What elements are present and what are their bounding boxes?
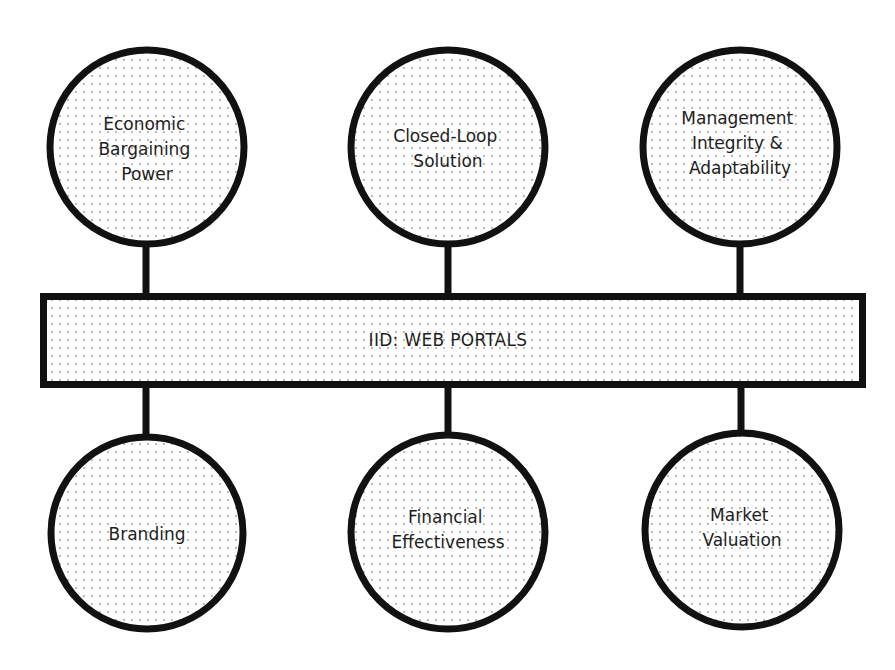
node-label-line: Financial xyxy=(408,507,482,527)
node-label-line: Bargaining xyxy=(98,139,190,159)
node-label-line: Valuation xyxy=(702,530,781,550)
center-bar-label: IID: WEB PORTALS xyxy=(369,330,528,350)
node-label-line: Closed-Loop xyxy=(393,126,497,146)
node-management-integrity-adaptability: Management Integrity & Adaptability xyxy=(643,50,837,244)
svg-text:Management Integrity &: Management Integrity & Adaptability xyxy=(681,108,798,178)
node-label-line: Management xyxy=(681,108,793,128)
center-bar: IID: WEB PORTALS xyxy=(44,297,863,385)
node-label-line: Effectiveness xyxy=(391,532,504,552)
node-label-line: Power xyxy=(121,164,172,184)
node-economic-bargaining-power: Economic Bargaining Power xyxy=(50,50,244,244)
node-label-line: Branding xyxy=(109,524,186,544)
node-label-line: Integrity & xyxy=(692,133,783,153)
node-label-line: Adaptability xyxy=(689,158,791,178)
node-label-line: Solution xyxy=(413,151,482,171)
node-financial-effectiveness: Financial Effectiveness xyxy=(351,435,545,629)
node-branding: Branding xyxy=(51,437,243,629)
node-label-line: Economic xyxy=(103,114,185,134)
node-market-valuation: Market Valuation xyxy=(645,433,839,627)
node-closed-loop-solution: Closed-Loop Solution xyxy=(351,50,545,244)
node-label-line: Market xyxy=(710,505,769,525)
iid-diagram: IID: WEB PORTALS Economic Bargaining Pow… xyxy=(0,0,895,670)
svg-text:Branding: Branding xyxy=(109,524,186,544)
